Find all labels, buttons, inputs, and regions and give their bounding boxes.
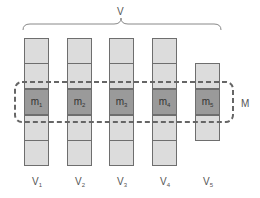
column-label-v2: V2: [65, 176, 95, 188]
selection-label-m: M: [241, 98, 249, 109]
column-label-v5: V5: [193, 176, 223, 188]
column-label-v4: V4: [150, 176, 180, 188]
column-label-v3: V3: [107, 176, 137, 188]
column-label-v1: V1: [22, 176, 52, 188]
selection-box-m: [15, 82, 233, 122]
selection-overlay: [0, 0, 260, 198]
